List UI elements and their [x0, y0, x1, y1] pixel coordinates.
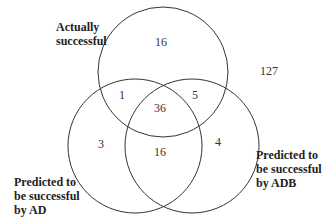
circle-predicted-ad	[68, 79, 202, 213]
region-all-three: 36	[154, 101, 166, 116]
region-adb-only: 4	[215, 135, 221, 150]
region-ad-and-adb: 16	[154, 145, 166, 160]
label-actually-successful: Actually successful	[56, 20, 107, 48]
region-actual-and-adb: 5	[192, 88, 198, 103]
region-actual-and-ad: 1	[119, 88, 125, 103]
region-outside: 127	[260, 64, 278, 79]
region-actual-only: 16	[155, 35, 167, 50]
label-predicted-adb: Predicted to be successful by ADB	[256, 148, 322, 190]
label-predicted-ad: Predicted to be successful by AD	[14, 175, 80, 217]
circle-actually-successful	[98, 7, 228, 137]
region-ad-only: 3	[98, 137, 104, 152]
